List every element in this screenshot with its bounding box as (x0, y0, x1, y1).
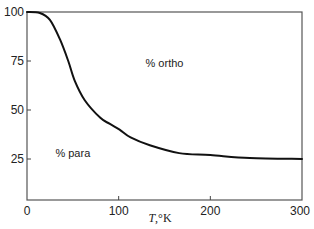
x-tick-label: 200 (200, 204, 220, 218)
region-label: % ortho (146, 57, 184, 69)
chart: 0100200300 255075100 % ortho% para T,°K (0, 0, 314, 229)
plot-frame (27, 12, 302, 200)
region-label: % para (55, 147, 91, 159)
y-tick-label: 25 (11, 152, 25, 166)
x-tick-label: 100 (109, 204, 129, 218)
annotations: % ortho% para (55, 57, 183, 159)
x-label-unit: ,°K (155, 211, 172, 225)
y-tick-label: 50 (11, 103, 25, 117)
ortho-fraction-curve (27, 12, 302, 159)
x-tick-label: 0 (24, 204, 31, 218)
y-tick-label: 75 (11, 54, 25, 68)
x-axis-label: T,°K (148, 211, 171, 225)
y-tick-label: 100 (4, 5, 24, 19)
x-tick-label: 300 (290, 204, 310, 218)
